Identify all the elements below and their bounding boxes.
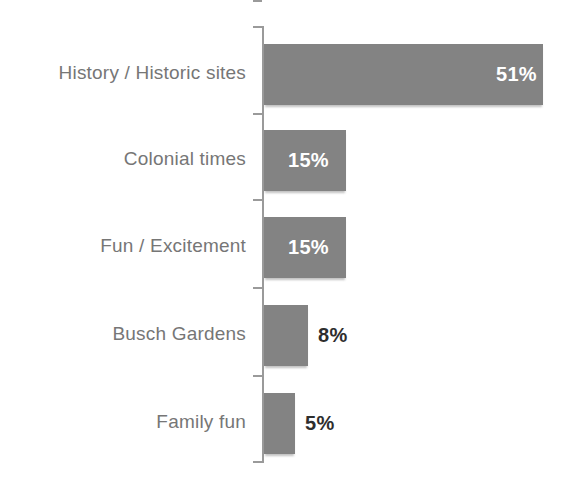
y-axis-tick xyxy=(253,199,262,201)
y-axis-tick xyxy=(253,375,262,377)
y-axis-tick xyxy=(253,26,262,28)
bar-segment[interactable] xyxy=(264,393,295,454)
y-axis-tick xyxy=(253,113,262,115)
bar-value-label: 51% xyxy=(496,63,537,86)
bar-value-label: 8% xyxy=(318,324,348,347)
y-axis-tick xyxy=(253,0,262,2)
y-axis-tick xyxy=(253,461,262,463)
bar-value-label: 15% xyxy=(288,236,329,259)
category-label: Fun / Excitement xyxy=(100,235,246,257)
y-axis-tick xyxy=(253,287,262,289)
bar-value-label: 5% xyxy=(305,412,335,435)
category-label: History / Historic sites xyxy=(59,62,246,84)
category-label: Family fun xyxy=(156,411,246,433)
category-label: Busch Gardens xyxy=(112,323,246,345)
bar-chart: History / Historic sites 51% Colonial ti… xyxy=(0,0,564,489)
category-label: Colonial times xyxy=(124,148,246,170)
bar-segment[interactable] xyxy=(264,305,308,366)
bar-value-label: 15% xyxy=(288,149,329,172)
